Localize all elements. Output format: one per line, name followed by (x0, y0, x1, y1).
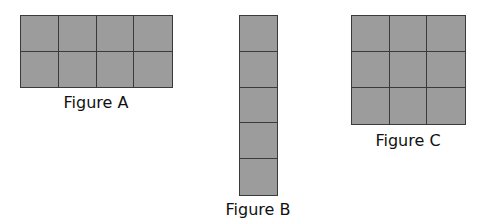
unit-square (240, 123, 277, 159)
figure-b (239, 15, 278, 196)
unit-square (352, 88, 390, 124)
figure-b-grid (239, 15, 278, 196)
unit-square (240, 159, 277, 195)
unit-square (390, 52, 428, 88)
unit-square (427, 16, 465, 52)
figure-a-label: Figure A (64, 93, 129, 112)
unit-square (59, 52, 97, 88)
figure-a-grid (20, 15, 173, 88)
unit-square (240, 16, 277, 52)
unit-square (97, 52, 135, 88)
unit-square (21, 52, 59, 88)
unit-square (390, 16, 428, 52)
unit-square (134, 16, 172, 52)
unit-square (352, 52, 390, 88)
unit-square (21, 16, 59, 52)
figure-b-label: Figure B (226, 200, 291, 219)
figure-a (20, 15, 173, 88)
unit-square (97, 16, 135, 52)
figure-c (351, 15, 466, 125)
unit-square (59, 16, 97, 52)
unit-square (240, 88, 277, 124)
figure-c-label: Figure C (375, 131, 440, 150)
figure-c-grid (351, 15, 466, 125)
unit-square (427, 52, 465, 88)
unit-square (352, 16, 390, 52)
unit-square (390, 88, 428, 124)
unit-square (134, 52, 172, 88)
unit-square (240, 52, 277, 88)
unit-square (427, 88, 465, 124)
